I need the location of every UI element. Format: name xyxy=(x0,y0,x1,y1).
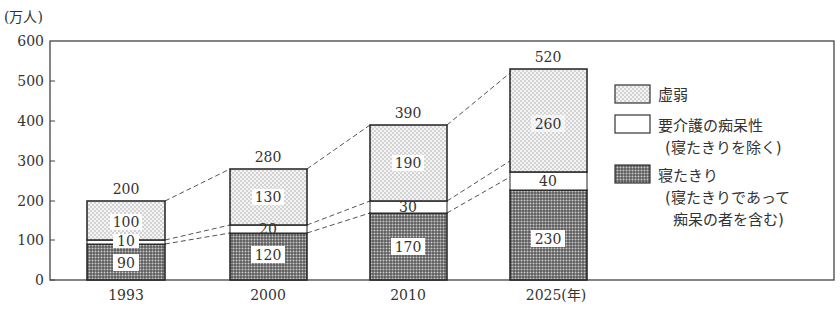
total-label: 520 xyxy=(535,49,562,65)
total-label: 280 xyxy=(255,149,282,165)
stacked-bar-chart: (万人) 0 100 200 300 400 500 600 200 xyxy=(0,0,840,310)
y-tick-label: 100 xyxy=(17,232,44,248)
y-tick-label: 600 xyxy=(17,33,44,49)
legend-swatch-frail xyxy=(615,85,650,103)
legend-label: (寝たきりであって xyxy=(665,189,790,207)
x-tick-label: 2010 xyxy=(390,287,426,303)
legend-swatch-dementia xyxy=(615,115,650,133)
y-axis: 0 100 200 300 400 500 600 xyxy=(17,33,55,288)
legend: 虚弱 要介護の痴呆性 (寝たきりを除く) 寝たきり (寝たきりであって 痴呆の者… xyxy=(615,85,790,229)
segment-label: 30 xyxy=(399,199,417,215)
segment-label: 190 xyxy=(395,155,422,171)
segment-label: 170 xyxy=(395,239,422,255)
segment-label: 230 xyxy=(535,231,562,247)
legend-swatch-bedridden xyxy=(615,165,650,183)
segment-label: 90 xyxy=(117,255,135,271)
legend-label: 痴呆の者を含む) xyxy=(673,211,784,229)
legend-label: 要介護の痴呆性 xyxy=(658,117,763,135)
segment-label: 10 xyxy=(117,233,135,249)
x-tick-label: 1993 xyxy=(108,287,144,303)
segment-label: 20 xyxy=(259,221,277,237)
total-label: 390 xyxy=(395,105,422,121)
x-tick-label: 2025(年) xyxy=(526,287,587,303)
x-tick-label: 2000 xyxy=(250,287,286,303)
connector-lines xyxy=(165,73,510,244)
y-tick-label: 400 xyxy=(17,113,44,129)
segment-label: 260 xyxy=(535,116,562,132)
y-tick-label: 0 xyxy=(35,272,44,288)
bar-2000: 280 130 20 120 2000 xyxy=(230,149,307,303)
bar-2025: 520 260 40 230 2025(年) xyxy=(510,49,587,303)
segment-label: 40 xyxy=(539,173,557,189)
y-tick-label: 200 xyxy=(17,193,44,209)
y-unit-label: (万人) xyxy=(4,9,43,25)
total-label: 200 xyxy=(113,181,140,197)
legend-label: 寝たきり xyxy=(658,167,718,185)
bar-1993: 200 100 10 90 1993 xyxy=(87,181,165,303)
bar-2010: 390 190 30 170 2010 xyxy=(370,105,447,303)
segment-label: 100 xyxy=(113,214,140,230)
segment-label: 130 xyxy=(255,189,282,205)
y-tick-label: 300 xyxy=(17,153,44,169)
legend-label: (寝たきりを除く) xyxy=(665,139,782,157)
y-tick-label: 500 xyxy=(17,73,44,89)
segment-label: 120 xyxy=(255,247,282,263)
legend-label: 虚弱 xyxy=(658,86,688,104)
